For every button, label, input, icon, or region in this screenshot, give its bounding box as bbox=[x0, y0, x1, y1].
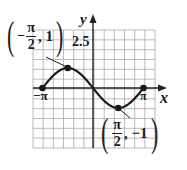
min-y-value: , −1 bbox=[124, 125, 148, 142]
right-paren: ) bbox=[56, 16, 63, 56]
y-tick-label: 2.5 bbox=[72, 35, 90, 49]
min-point-label: ( π 2 , −1 ) bbox=[98, 113, 161, 153]
key-point-marker bbox=[64, 65, 71, 72]
x-axis-label: x bbox=[160, 90, 168, 106]
max-sign: − bbox=[17, 28, 25, 44]
pos-pi-tick-label: π bbox=[140, 90, 147, 102]
max-numerator: π bbox=[26, 21, 36, 37]
max-denominator: 2 bbox=[28, 37, 35, 52]
right-paren: ) bbox=[151, 113, 158, 153]
max-y-value: , 1 bbox=[38, 28, 53, 45]
min-numerator: π bbox=[112, 118, 122, 134]
key-point-marker bbox=[115, 105, 122, 112]
min-denominator: 2 bbox=[114, 134, 121, 149]
max-point-label: ( − π 2 , 1 ) bbox=[4, 16, 66, 56]
y-axis-label: y bbox=[80, 12, 87, 27]
min-fraction: π 2 bbox=[112, 118, 122, 149]
left-paren: ( bbox=[7, 16, 14, 56]
max-fraction: π 2 bbox=[26, 21, 36, 52]
neg-pi-tick-label: −π bbox=[33, 89, 48, 102]
left-paren: ( bbox=[101, 113, 108, 153]
y-axis-arrow-icon bbox=[90, 14, 97, 23]
